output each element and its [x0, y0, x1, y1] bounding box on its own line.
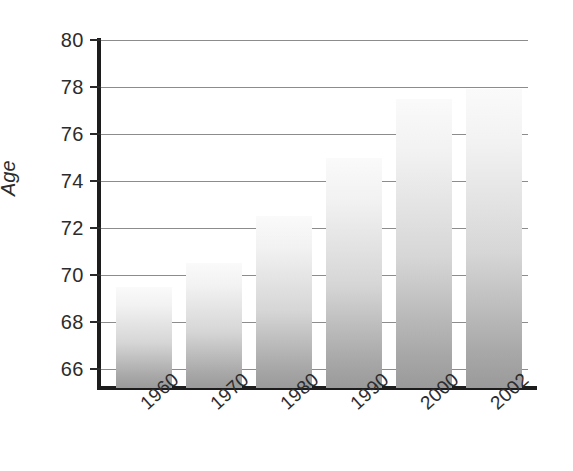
gridline: [100, 40, 528, 41]
y-tick-label: 70: [0, 264, 84, 287]
gridline: [100, 87, 528, 88]
y-tick-label: 74: [0, 170, 84, 193]
y-axis-tick: [90, 133, 101, 135]
y-axis-tick: [90, 86, 101, 88]
y-tick-label: 68: [0, 311, 84, 334]
y-tick-label: 78: [0, 76, 84, 99]
gridline: [100, 134, 528, 135]
y-tick-label: 76: [0, 123, 84, 146]
bar: [466, 89, 522, 388]
plot-area: [100, 40, 528, 388]
gridline: [100, 181, 528, 182]
bar: [326, 158, 382, 388]
y-tick-label: 66: [0, 358, 84, 381]
y-axis-tick: [90, 368, 101, 370]
y-tick-label: 80: [0, 29, 84, 52]
gridline: [100, 275, 528, 276]
y-axis-tick: [90, 227, 101, 229]
bar-chart: Age 6668707274767880 1960197019801990200…: [0, 0, 573, 471]
gridline: [100, 228, 528, 229]
y-axis-tick: [90, 180, 101, 182]
y-axis-tick: [90, 321, 101, 323]
y-axis-tick: [90, 274, 101, 276]
y-tick-label: 72: [0, 217, 84, 240]
bar: [396, 99, 452, 388]
bar: [256, 216, 312, 388]
bar: [186, 263, 242, 388]
y-axis-tick: [90, 39, 101, 41]
